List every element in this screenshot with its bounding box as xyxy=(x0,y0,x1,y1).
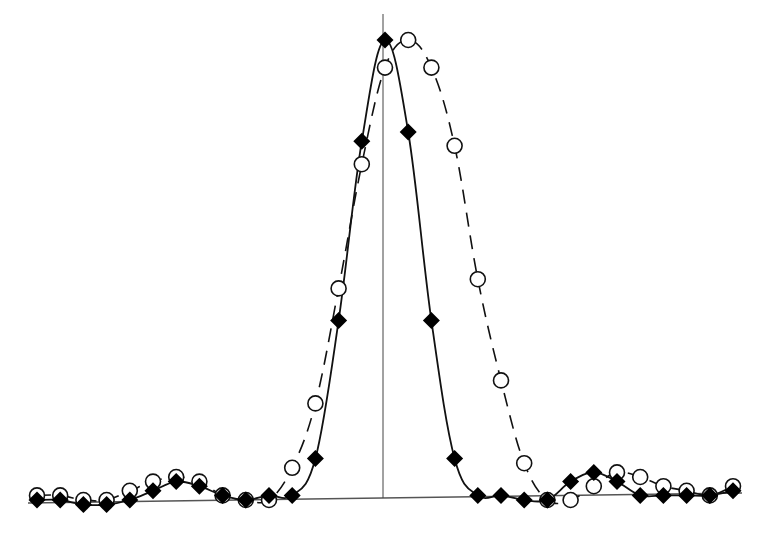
solid-series-line xyxy=(37,40,733,505)
circle-marker xyxy=(470,272,485,287)
diamond-marker xyxy=(237,492,254,509)
dashed-series-line xyxy=(37,40,733,504)
diamond-marker xyxy=(493,487,510,504)
circle-marker xyxy=(378,60,393,75)
diamond-marker xyxy=(469,487,486,504)
circle-marker xyxy=(285,460,300,475)
diamond-marker xyxy=(516,492,533,509)
chart-canvas xyxy=(0,0,767,534)
circle-marker xyxy=(447,138,462,153)
diamond-marker xyxy=(446,450,463,467)
circle-marker xyxy=(424,60,439,75)
circle-marker xyxy=(563,493,578,508)
diamond-marker xyxy=(701,487,718,504)
circle-marker xyxy=(633,470,648,485)
circle-marker xyxy=(586,479,601,494)
circle-marker xyxy=(494,373,509,388)
circle-marker xyxy=(308,396,323,411)
diamond-marker xyxy=(284,487,301,504)
diamond-markers xyxy=(29,32,742,514)
circle-markers xyxy=(30,33,741,508)
diamond-marker xyxy=(539,492,556,509)
diamond-marker xyxy=(585,464,602,481)
diamond-marker xyxy=(562,473,579,490)
circle-marker xyxy=(354,157,369,172)
circle-marker xyxy=(401,33,416,48)
diamond-marker xyxy=(423,312,440,329)
diamond-marker xyxy=(400,124,417,141)
diamond-marker xyxy=(632,487,649,504)
diamond-marker xyxy=(330,312,347,329)
diamond-marker xyxy=(214,487,231,504)
diamond-marker xyxy=(307,450,324,467)
circle-marker xyxy=(517,456,532,471)
circle-marker xyxy=(331,281,346,296)
